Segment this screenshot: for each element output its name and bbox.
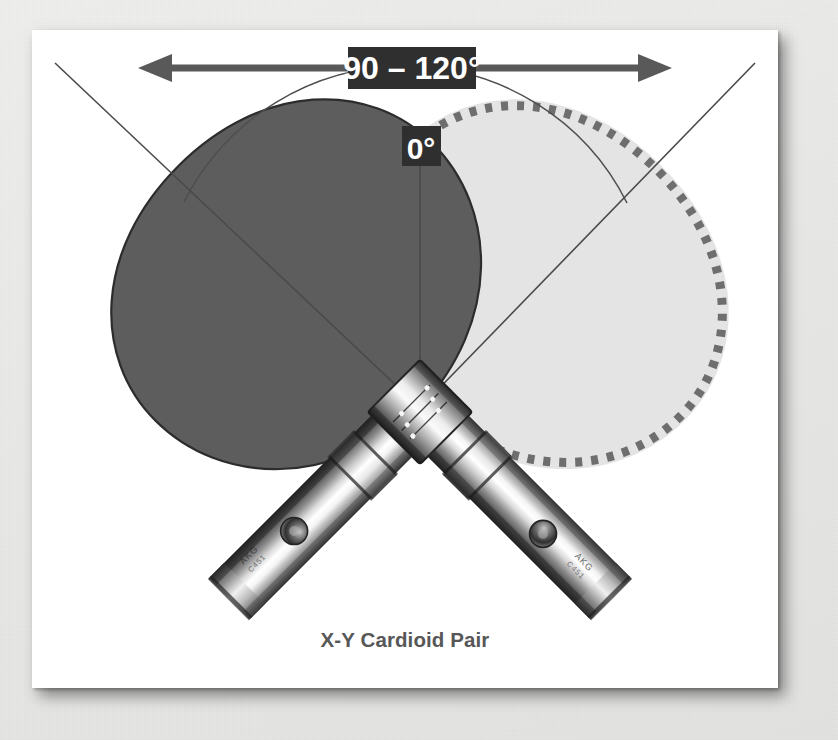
zero-degree-label-text: 0°	[407, 132, 436, 165]
angle-label-text: 90 – 120°	[343, 50, 480, 86]
zero-degree-label-chip: 0°	[402, 126, 441, 166]
angle-label-chip: 90 – 120°	[343, 47, 480, 89]
figure-caption: X-Y Cardioid Pair	[321, 628, 490, 651]
figure-panel: AKG C451 AKG C451	[32, 30, 778, 688]
xy-cardioid-pair-diagram: AKG C451 AKG C451	[32, 30, 778, 688]
